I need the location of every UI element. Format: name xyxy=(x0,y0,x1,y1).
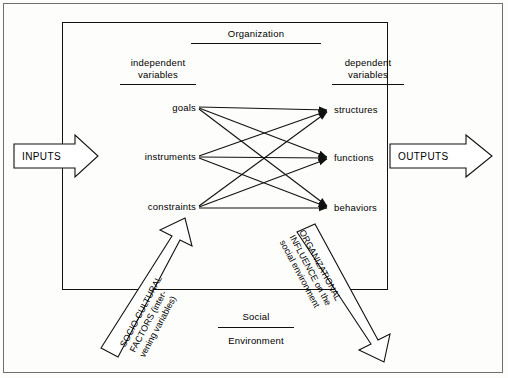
dependent-variables-heading-line2: variables xyxy=(330,69,406,80)
organization-title: Organization xyxy=(219,28,293,39)
footer-divider-line xyxy=(218,327,294,328)
independent-variables-underline xyxy=(120,84,196,85)
relationship-arrows xyxy=(199,107,327,208)
footer-environment-label: Environment xyxy=(212,335,300,346)
independent-variables-heading-line2: variables xyxy=(116,69,200,80)
outputs-label: OUTPUTS xyxy=(398,151,449,162)
inputs-label: INPUTS xyxy=(22,151,61,162)
organization-title-underline xyxy=(191,43,321,44)
independent-variables-heading-line1: independent xyxy=(116,57,200,68)
diagram-canvas: Organization independent variables depen… xyxy=(0,0,508,378)
independent-item-goals: goals xyxy=(96,102,196,113)
footer-social-label: Social xyxy=(224,311,288,322)
dependent-variables-underline xyxy=(332,84,404,85)
dependent-item-structures: structures xyxy=(334,104,378,115)
dependent-variables-heading-line1: dependent xyxy=(330,57,406,68)
independent-item-instruments: instruments xyxy=(96,151,196,162)
dependent-item-behaviors: behaviors xyxy=(334,202,377,213)
dependent-item-functions: functions xyxy=(334,152,374,163)
independent-item-constraints: constraints xyxy=(96,201,196,212)
